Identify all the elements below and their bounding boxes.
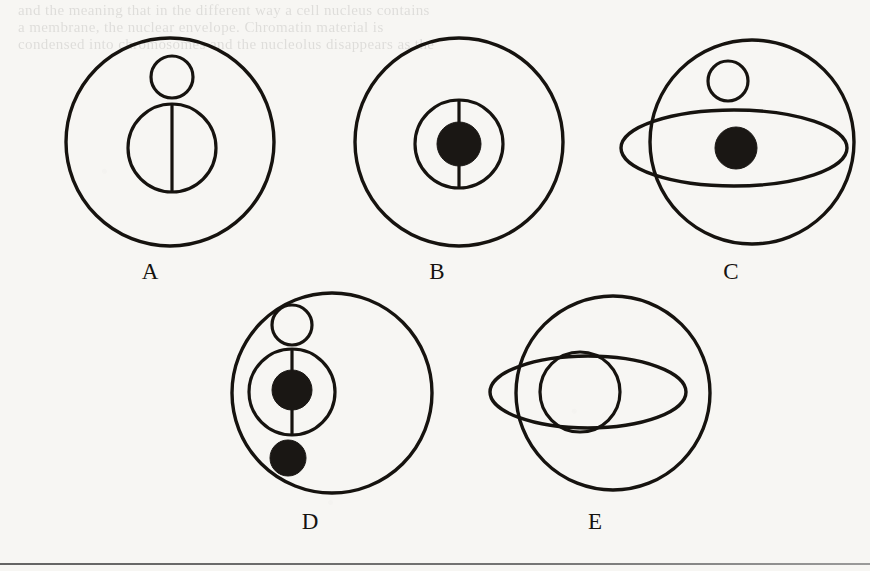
figure-e-label: E bbox=[588, 509, 602, 534]
figure-diagram-canvas: ABCDE bbox=[0, 0, 870, 571]
figure-c-filled-dot-1 bbox=[715, 127, 757, 169]
figure-c-label: C bbox=[723, 259, 738, 284]
figure-d-filled-dot-1 bbox=[272, 370, 312, 410]
figure-d-outer-circle bbox=[232, 293, 432, 493]
figure-b: B bbox=[355, 38, 563, 284]
figure-e-mid-circle bbox=[540, 352, 620, 432]
figure-a-small-circle bbox=[151, 56, 193, 98]
figure-panel: ABCDE bbox=[0, 0, 870, 571]
figure-c: C bbox=[621, 40, 854, 284]
figure-e-outer-circle bbox=[516, 296, 710, 490]
figures-group: ABCDE bbox=[66, 38, 854, 534]
figure-e: E bbox=[490, 296, 710, 534]
figure-a: A bbox=[66, 38, 274, 284]
figure-d: D bbox=[232, 293, 432, 534]
figure-d-small-circle bbox=[272, 305, 312, 345]
figure-c-small-circle bbox=[708, 61, 748, 101]
figure-e-ellipse bbox=[490, 356, 686, 428]
figure-a-label: A bbox=[142, 259, 159, 284]
figure-d-label: D bbox=[302, 509, 319, 534]
page-bottom-rule bbox=[0, 563, 870, 565]
figure-b-filled-dot-1 bbox=[437, 122, 481, 166]
figure-d-filled-dot-2 bbox=[270, 440, 306, 476]
figure-b-label: B bbox=[429, 259, 444, 284]
figure-a-outer-circle bbox=[66, 38, 274, 246]
